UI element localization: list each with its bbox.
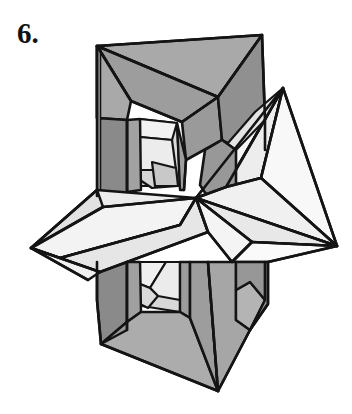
figure-canvas: 6. [0, 0, 352, 414]
inner-core-lower [140, 262, 180, 312]
inner-core-upper [140, 119, 180, 188]
upper-window-left-post [127, 119, 141, 192]
lower-window-right-post [180, 262, 190, 318]
polyhedra-illustration [0, 0, 352, 414]
